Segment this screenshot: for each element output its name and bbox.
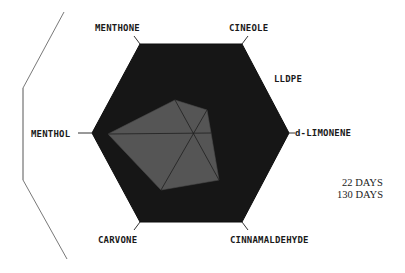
legend: 22 DAYS 130 DAYS bbox=[337, 177, 383, 200]
axis-label-carvone: CARVONE bbox=[98, 235, 137, 245]
series-label-lldpe: LLDPE bbox=[274, 74, 302, 84]
radar-chart: MENTHONE CINEOLE LLDPE d-LIMONENE CINNAM… bbox=[0, 0, 405, 273]
axis-label-menthol: MENTHOL bbox=[31, 129, 71, 139]
axis-label-menthone: MENTHONE bbox=[95, 23, 140, 33]
axis-label-d-limonene: d-LIMONENE bbox=[295, 128, 351, 138]
axis-label-cinnamaldehyde: CINNAMALDEHYDE bbox=[230, 235, 309, 245]
legend-item-130-days: 130 DAYS bbox=[337, 189, 383, 200]
legend-item-22-days: 22 DAYS bbox=[342, 177, 383, 188]
axis-label-cineole: CINEOLE bbox=[229, 23, 268, 33]
